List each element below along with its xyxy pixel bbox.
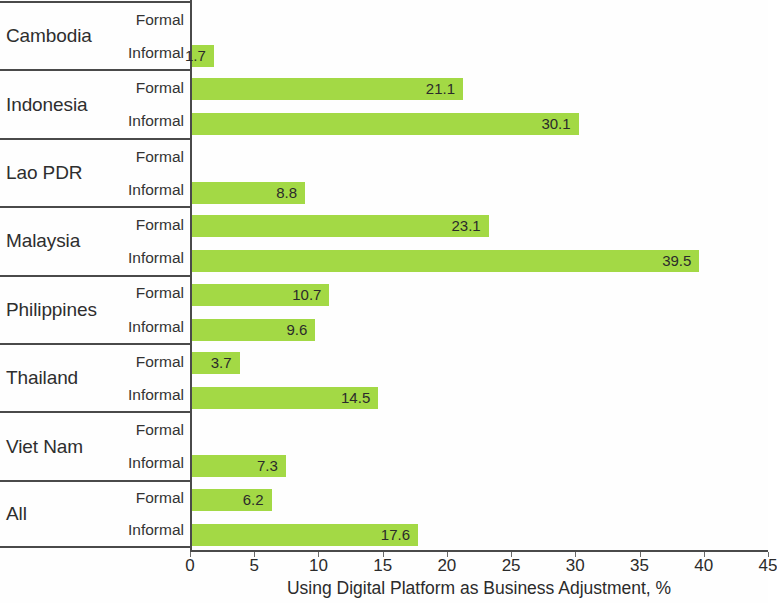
category-row: CambodiaFormalInformal: [0, 1, 190, 69]
x-tick-label: 5: [249, 556, 258, 576]
subcategory-cell: FormalInformal: [103, 140, 190, 206]
subcategory-label: Informal: [128, 522, 184, 538]
category-name-cell: Lao PDR: [0, 140, 103, 206]
subcategory-cell: FormalInformal: [103, 71, 190, 137]
bar-value-label: 39.5: [657, 250, 691, 272]
category-name-cell: Viet Nam: [0, 413, 103, 479]
category-row: Lao PDRFormalInformal: [0, 138, 190, 206]
bar-value-label: 6.2: [230, 489, 264, 511]
category-row: Viet NamFormalInformal: [0, 411, 190, 479]
category-label: Viet Nam: [6, 437, 83, 457]
bar-value-label: 3.7: [198, 352, 232, 374]
subcategory-label: Informal: [128, 455, 184, 471]
bar-value-label: 7.3: [244, 455, 278, 477]
bar-value-label: 21.1: [421, 78, 455, 100]
x-tick-label: 15: [373, 556, 392, 576]
subcategory-cell: FormalInformal: [103, 208, 190, 274]
bar-value-label: 23.1: [447, 215, 481, 237]
x-tick-label: 40: [694, 556, 713, 576]
bar-value-label: 17.6: [376, 524, 410, 546]
subcategory-label: Informal: [128, 182, 184, 198]
bar-value-label: 1.7: [172, 45, 206, 67]
category-row: MalaysiaFormalInformal: [0, 206, 190, 274]
subcategory-cell: FormalInformal: [103, 413, 190, 479]
category-label: Indonesia: [6, 95, 88, 115]
bar-value-label: 14.5: [336, 387, 370, 409]
bar-value-label: 9.6: [273, 319, 307, 341]
x-tick-label: 45: [759, 556, 777, 576]
subcategory-label: Informal: [128, 387, 184, 403]
bar: [192, 215, 489, 237]
x-tick-label: 30: [566, 556, 585, 576]
bar-value-label: 8.8: [263, 182, 297, 204]
subcategory-label: Formal: [136, 354, 184, 370]
category-row: PhilippinesFormalInformal: [0, 275, 190, 343]
subcategory-label: Informal: [128, 113, 184, 129]
bar-value-label: 10.7: [287, 284, 321, 306]
category-label: Lao PDR: [6, 163, 82, 183]
subcategory-label: Formal: [136, 490, 184, 506]
category-label: Cambodia: [6, 26, 92, 46]
plot-area: 1.721.130.18.823.139.510.79.63.714.57.36…: [190, 0, 768, 550]
category-name-cell: Cambodia: [0, 3, 103, 69]
subcategory-cell: FormalInformal: [103, 345, 190, 411]
subcategory-cell: FormalInformal: [103, 482, 190, 546]
category-label: Philippines: [6, 300, 97, 320]
category-name-cell: Thailand: [0, 345, 103, 411]
category-row: ThailandFormalInformal: [0, 343, 190, 411]
subcategory-label: Formal: [136, 149, 184, 165]
category-label: All: [6, 504, 27, 524]
subcategory-label: Informal: [128, 250, 184, 266]
x-tick-label: 20: [437, 556, 456, 576]
x-tick-label: 10: [309, 556, 328, 576]
bar: [192, 113, 579, 135]
category-name-cell: Malaysia: [0, 208, 103, 274]
subcategory-label: Formal: [136, 422, 184, 438]
x-axis-title: Using Digital Platform as Business Adjus…: [190, 578, 768, 599]
category-label: Malaysia: [6, 231, 80, 251]
subcategory-label: Formal: [136, 285, 184, 301]
x-tick-label: 25: [502, 556, 521, 576]
category-row: AllFormalInformal: [0, 480, 190, 548]
x-tick-label: 35: [630, 556, 649, 576]
category-label-table: CambodiaFormalInformalIndonesiaFormalInf…: [0, 0, 190, 550]
category-row: IndonesiaFormalInformal: [0, 69, 190, 137]
bar-value-label: 30.1: [537, 113, 571, 135]
category-name-cell: Philippines: [0, 277, 103, 343]
subcategory-label: Informal: [128, 319, 184, 335]
category-name-cell: All: [0, 482, 103, 546]
subcategory-label: Formal: [136, 12, 184, 28]
x-axis-ticks: 051015202530354045: [190, 552, 768, 578]
category-name-cell: Indonesia: [0, 71, 103, 137]
category-label: Thailand: [6, 368, 78, 388]
x-tick-label: 0: [185, 556, 194, 576]
bar: [192, 250, 699, 272]
subcategory-cell: FormalInformal: [103, 277, 190, 343]
subcategory-label: Formal: [136, 80, 184, 96]
subcategory-label: Formal: [136, 217, 184, 233]
